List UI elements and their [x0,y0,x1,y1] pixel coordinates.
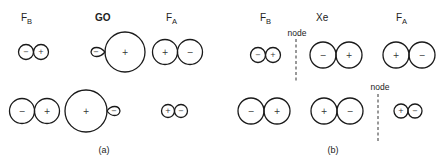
caption-a: (a) [99,145,110,155]
sign: − [178,107,184,115]
row1-fa-p-orbital: + − [153,40,203,65]
row1-xe-p-orbital: − + [310,42,362,68]
sign: − [412,107,418,115]
sign: + [321,107,328,116]
row2-xe-p-orbital: + − [311,98,363,124]
panel-a: FB GO FA − + − + + − − + [10,12,203,155]
sign: + [398,107,404,115]
row1-fb-p-orbital: − + [19,45,49,60]
caption-b: (b) [328,145,339,155]
label-fb-a: FB [21,12,32,26]
row2-go-hybrid-orbital: + − [65,90,120,132]
row2-fa-p-orbital: + − [162,105,188,118]
label-fb-b: FB [260,12,271,26]
label-fa-b: FA [396,12,407,26]
sign: + [346,51,353,60]
sign: − [93,48,99,56]
sign: − [23,48,29,56]
sign: + [38,48,44,56]
row2-fb-p-orbital-b: − + [238,98,290,124]
sign: + [122,48,129,57]
row2-fb-p-orbital: − + [10,99,60,124]
sign: + [83,107,90,116]
sign: + [165,107,171,115]
sign: − [187,48,194,57]
row1-fb-p-orbital-b: − + [251,48,281,63]
row1-go-hybrid-orbital: − + [91,32,145,72]
sign: − [248,107,255,116]
sign: − [419,51,426,60]
label-fa-a: FA [166,12,177,26]
row2-fa-p-orbital-b: + − [394,104,422,118]
sign: − [320,51,327,60]
sign: − [347,107,354,116]
sign: + [162,48,169,57]
node-label-bottom: node [371,82,390,92]
sign: + [274,107,281,116]
orbital-diagram: FB GO FA − + − + + − − + [0,0,444,163]
sign: − [255,51,261,59]
label-xe: Xe [316,12,329,23]
panel-b: FB Xe FA node − + − + + − − [238,12,435,155]
sign: − [111,107,117,115]
sign: + [270,51,276,59]
node-label-top: node [288,28,307,38]
sign: − [19,107,26,116]
sign: + [393,51,400,60]
row1-fa-p-orbital-b: + − [383,42,435,68]
label-go: GO [95,12,111,23]
sign: + [44,107,51,116]
